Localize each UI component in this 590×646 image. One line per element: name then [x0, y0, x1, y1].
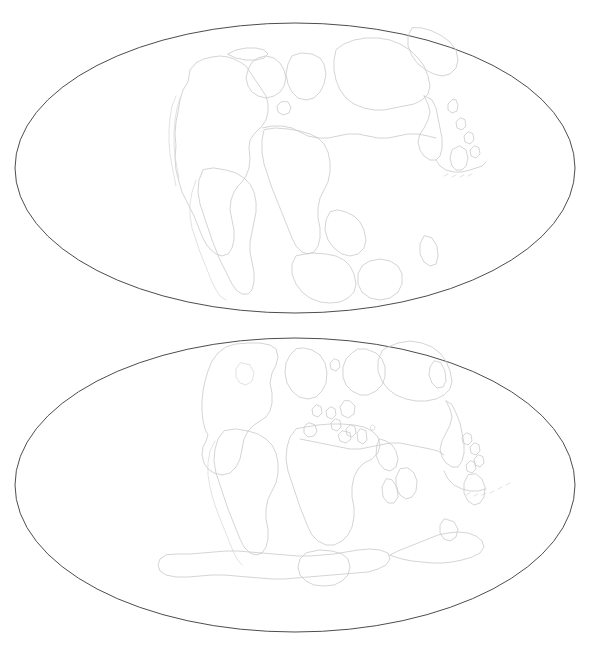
upper-reconstruction-map	[0, 0, 590, 323]
figure-root: Paleogeographic reconstruction map pair …	[0, 0, 590, 646]
map-panel-bottom	[0, 323, 590, 646]
lower-reconstruction-map	[0, 323, 590, 646]
map-panel-top	[0, 0, 590, 323]
globe-outline-ellipse-top	[15, 23, 575, 313]
globe-outline-ellipse-bottom	[15, 338, 575, 632]
